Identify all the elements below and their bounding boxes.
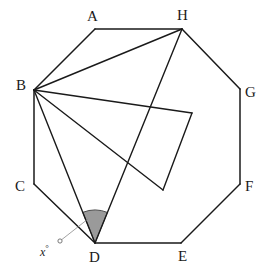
vertex-label-f: F bbox=[245, 179, 253, 194]
vertex-label-a: A bbox=[87, 9, 98, 24]
octagon-edge-BA bbox=[34, 29, 95, 90]
octagon-outline bbox=[34, 29, 240, 243]
vertex-label-e: E bbox=[178, 249, 187, 264]
vertex-label-h: H bbox=[177, 8, 188, 23]
angle-leader-dot bbox=[58, 239, 62, 243]
segment-BP bbox=[34, 90, 192, 113]
diagonal-HD bbox=[95, 29, 182, 243]
vertex-label-c: C bbox=[15, 179, 25, 194]
octagon-diagram: AHGFEDCBx° bbox=[0, 0, 272, 276]
diagram-canvas bbox=[0, 0, 272, 276]
segment-PQ bbox=[163, 113, 192, 190]
degree-symbol: ° bbox=[45, 243, 49, 253]
vertex-label-g: G bbox=[245, 85, 256, 100]
vertex-label-b: B bbox=[16, 78, 26, 93]
diagonal-lines bbox=[34, 29, 182, 243]
inner-segments bbox=[34, 90, 192, 190]
angle-sector-x bbox=[83, 210, 108, 243]
vertex-label-d: D bbox=[89, 250, 100, 265]
octagon-edge-FE bbox=[181, 184, 240, 243]
shaded-angle-sector bbox=[83, 210, 108, 243]
diagonal-BH bbox=[34, 29, 182, 90]
angle-label-x: x° bbox=[40, 244, 49, 258]
octagon-edge-HG bbox=[182, 29, 240, 89]
